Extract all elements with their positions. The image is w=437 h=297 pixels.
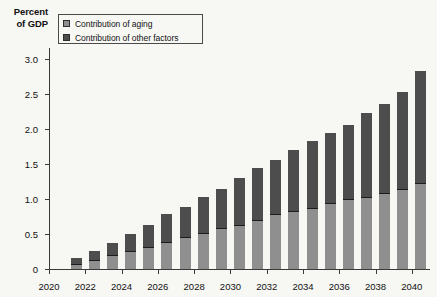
x-tick-label: 2040 <box>401 281 422 292</box>
x-tick: 2038 <box>376 270 377 274</box>
bar-segment-other-factors <box>379 104 390 193</box>
y-axis-title: Percent of GDP <box>0 6 48 29</box>
bar-segment-other-factors <box>288 150 299 212</box>
x-tick: 2030 <box>230 270 231 274</box>
bar-segment-aging <box>198 233 209 269</box>
x-tick: 2024 <box>122 270 123 274</box>
y-tick-label: 1.5 <box>25 158 38 169</box>
bar-segment-other-factors <box>307 141 318 208</box>
bar-segment-aging <box>89 260 100 269</box>
bar-segment-aging <box>161 242 172 269</box>
bar-segment-aging <box>415 183 426 269</box>
y-axis-line <box>49 48 50 270</box>
x-tick-label: 2020 <box>38 281 59 292</box>
bar-segment-other-factors <box>216 189 227 228</box>
bar-segment-other-factors <box>107 243 118 255</box>
y-tick-label: 0 <box>33 264 38 275</box>
bar-2026 <box>161 214 172 269</box>
x-tick: 2036 <box>339 270 340 274</box>
plot-area: 00.51.01.52.02.53.0 20202022202420262028… <box>49 48 430 270</box>
bar-2035 <box>325 133 336 269</box>
y-tick-label: 2.5 <box>25 88 38 99</box>
bar-segment-other-factors <box>234 178 245 225</box>
x-tick-label: 2028 <box>184 281 205 292</box>
bar-2038 <box>379 104 390 269</box>
chart-legend: Contribution of aging Contribution of ot… <box>58 14 203 44</box>
bar-2022 <box>89 251 100 269</box>
legend-item-aging: Contribution of aging <box>63 17 202 30</box>
x-tick: 2034 <box>303 270 304 274</box>
bar-2032 <box>270 160 281 269</box>
y-tick: 2.0 <box>45 129 49 130</box>
bar-2034 <box>307 141 318 269</box>
bar-segment-other-factors <box>180 207 191 238</box>
y-tick: 3.0 <box>45 59 49 60</box>
bar-2028 <box>198 197 209 269</box>
chart-container: Percent of GDP Contribution of aging Con… <box>0 0 437 297</box>
x-tick: 2040 <box>412 270 413 274</box>
bar-2033 <box>288 150 299 269</box>
bar-segment-other-factors <box>125 234 136 251</box>
bar-segment-aging <box>234 225 245 269</box>
bar-2027 <box>180 207 191 269</box>
bar-2021 <box>71 258 82 269</box>
bar-segment-aging <box>216 228 227 269</box>
bar-segment-aging <box>125 251 136 269</box>
bar-segment-other-factors <box>143 225 154 247</box>
bar-segment-other-factors <box>397 92 408 189</box>
bar-segment-aging <box>71 264 82 269</box>
bar-2036 <box>343 125 354 269</box>
bar-segment-aging <box>379 193 390 269</box>
y-axis-title-line-2: of GDP <box>0 18 48 30</box>
x-axis-line <box>49 269 430 270</box>
bar-2039 <box>397 92 408 269</box>
x-tick-label: 2024 <box>111 281 132 292</box>
bar-2040 <box>415 71 426 269</box>
bar-segment-other-factors <box>325 133 336 203</box>
bar-segment-aging <box>288 211 299 269</box>
bar-segment-aging <box>307 208 318 269</box>
bar-segment-other-factors <box>161 214 172 242</box>
bar-2024 <box>125 234 136 269</box>
x-tick-label: 2026 <box>147 281 168 292</box>
bar-segment-aging <box>361 197 372 269</box>
legend-swatch-aging-icon <box>63 20 70 27</box>
bar-segment-other-factors <box>270 160 281 214</box>
bar-segment-aging <box>143 247 154 269</box>
bar-2037 <box>361 113 372 269</box>
legend-item-other-factors: Contribution of other factors <box>63 31 202 44</box>
bar-segment-other-factors <box>252 168 263 220</box>
bar-segment-aging <box>107 255 118 269</box>
y-axis-title-line-1: Percent <box>0 6 48 18</box>
bar-segment-aging <box>397 189 408 269</box>
y-tick-label: 1.0 <box>25 193 38 204</box>
bar-segment-other-factors <box>415 71 426 183</box>
y-tick-label: 2.0 <box>25 123 38 134</box>
x-tick: 2026 <box>158 270 159 274</box>
x-tick-label: 2022 <box>75 281 96 292</box>
y-tick-label: 3.0 <box>25 53 38 64</box>
x-tick: 2020 <box>49 270 50 274</box>
y-tick: 1.0 <box>45 199 49 200</box>
bar-segment-other-factors <box>361 113 372 197</box>
x-tick-label: 2038 <box>365 281 386 292</box>
bar-segment-aging <box>343 199 354 269</box>
y-tick: 2.5 <box>45 94 49 95</box>
y-tick: 0.5 <box>45 234 49 235</box>
bar-segment-aging <box>270 214 281 269</box>
x-tick-label: 2032 <box>256 281 277 292</box>
bar-segment-other-factors <box>198 197 209 232</box>
bar-2030 <box>234 178 245 269</box>
legend-swatch-other-factors-icon <box>63 34 70 41</box>
bar-segment-aging <box>180 237 191 269</box>
legend-label-aging: Contribution of aging <box>75 19 152 29</box>
bar-segment-other-factors <box>89 251 100 259</box>
x-tick-label: 2034 <box>292 281 313 292</box>
legend-label-other-factors: Contribution of other factors <box>75 33 178 43</box>
bar-2025 <box>143 225 154 269</box>
y-tick: 1.5 <box>45 164 49 165</box>
x-tick: 2032 <box>267 270 268 274</box>
x-tick: 2028 <box>194 270 195 274</box>
x-tick: 2022 <box>85 270 86 274</box>
bar-2023 <box>107 243 118 269</box>
